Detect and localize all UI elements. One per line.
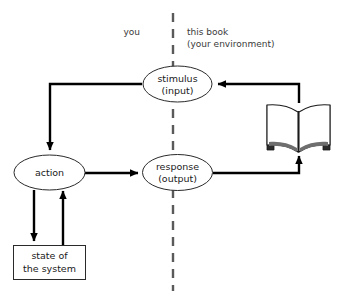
- edge-book-to-stimulus: [218, 84, 299, 103]
- diagram-canvas: stimulus (input) action response (output…: [0, 0, 350, 305]
- side-label-your-environment: (your environment): [187, 39, 274, 49]
- open-book-icon: [267, 105, 330, 152]
- node-action-label-line1: action: [35, 167, 64, 178]
- node-stimulus-label-line2: (input): [162, 85, 194, 96]
- side-label-you: you: [123, 27, 140, 37]
- edge-stimulus-to-action: [50, 84, 142, 150]
- node-action: action: [14, 155, 85, 190]
- node-stimulus-label-line1: stimulus: [157, 73, 197, 84]
- node-state-label-line1: state of: [31, 250, 68, 261]
- node-stimulus: stimulus (input): [143, 66, 212, 102]
- node-response: response (output): [143, 155, 213, 191]
- side-label-this-book: this book: [187, 27, 229, 37]
- edge-response-to-book: [213, 156, 299, 173]
- diagram-svg: stimulus (input) action response (output…: [0, 0, 350, 305]
- node-state-of-the-system: state of the system: [14, 246, 86, 280]
- node-response-label-line1: response: [156, 161, 199, 172]
- node-response-label-line2: (output): [158, 173, 197, 184]
- node-state-label-line2: the system: [23, 263, 76, 274]
